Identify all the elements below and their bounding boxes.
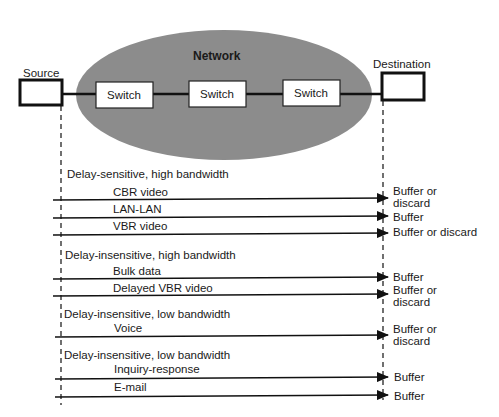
flow-arrow <box>53 198 388 200</box>
group-heading: Delay-insensitive, low bandwidth <box>64 349 230 361</box>
network-label: Network <box>193 50 240 62</box>
flow-arrow <box>55 395 388 397</box>
flow-name: Voice <box>114 322 142 334</box>
group-heading: Delay-insensitive, low bandwidth <box>64 308 230 320</box>
flow-action: Buffer or discard <box>393 185 437 209</box>
flow-arrow <box>55 377 388 379</box>
destination-label: Destination <box>373 58 431 70</box>
switch-label-3: Switch <box>294 87 328 99</box>
flow-name: LAN-LAN <box>113 203 162 215</box>
flow-arrow <box>53 216 388 218</box>
source-label: Source <box>23 67 59 79</box>
flow-action: Buffer or discard <box>393 284 437 308</box>
flow-action: Buffer <box>393 271 423 283</box>
flow-name: VBR video <box>113 220 167 232</box>
group-heading: Delay-insensitive, high bandwidth <box>65 249 236 261</box>
source-box <box>20 80 62 105</box>
flow-arrow <box>53 277 388 279</box>
flow-name: E-mail <box>114 381 147 393</box>
switch-label-2: Switch <box>200 88 234 100</box>
flow-action: Buffer or discard <box>393 226 477 238</box>
destination-box <box>382 73 424 100</box>
flow-arrow <box>55 335 388 337</box>
flow-action: Buffer <box>393 211 423 223</box>
flow-name: Bulk data <box>113 265 161 277</box>
flow-name: CBR video <box>113 186 168 198</box>
flow-name: Delayed VBR video <box>113 282 213 294</box>
group-heading: Delay-sensitive, high bandwidth <box>67 168 229 180</box>
switch-label-1: Switch <box>107 89 141 101</box>
flow-action: Buffer <box>394 371 424 383</box>
flow-action: Buffer <box>394 390 424 402</box>
flow-arrow <box>53 233 388 235</box>
flow-name: Inquiry-response <box>114 363 200 375</box>
flow-arrow <box>53 294 388 296</box>
flow-action: Buffer or discard <box>393 323 437 347</box>
